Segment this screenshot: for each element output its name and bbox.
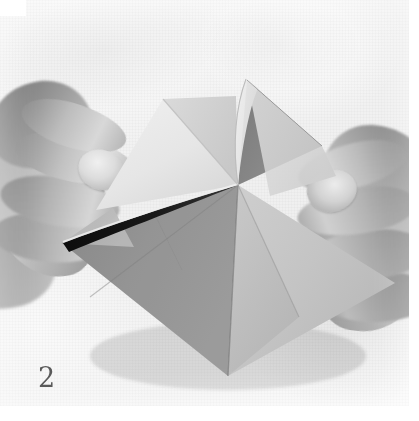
plate-margin-bottom [0, 406, 419, 421]
figure-plate: 2 [0, 0, 419, 421]
photograph [0, 0, 409, 406]
step-number: 2 [38, 360, 72, 396]
plate-margin-top-left [0, 0, 26, 16]
paper-model [0, 0, 409, 406]
plate-margin-right [409, 0, 419, 421]
